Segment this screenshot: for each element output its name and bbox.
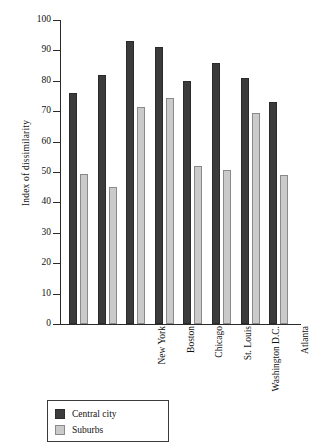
legend-swatch-central bbox=[55, 409, 65, 419]
legend-label: Suburbs bbox=[72, 425, 103, 435]
y-axis-tick bbox=[53, 172, 60, 173]
y-axis-tick bbox=[53, 81, 60, 82]
y-axis-tick-labels: 1009080706050403020100 bbox=[19, 20, 51, 325]
bar-suburbs bbox=[80, 174, 88, 324]
bar-group bbox=[269, 20, 289, 324]
y-axis-tick bbox=[53, 294, 60, 295]
y-axis-tick bbox=[53, 142, 60, 143]
y-axis-tick-label: 50 bbox=[21, 167, 51, 177]
y-axis-tick bbox=[53, 20, 60, 21]
bar-central-city bbox=[126, 41, 134, 324]
bar-central-city bbox=[98, 75, 106, 324]
y-axis-tick bbox=[53, 202, 60, 203]
bar-group bbox=[126, 20, 146, 324]
plot-area bbox=[60, 20, 301, 325]
bar-central-city bbox=[241, 78, 249, 324]
bar-central-city bbox=[69, 93, 77, 324]
bar-suburbs bbox=[109, 187, 117, 324]
bar-group bbox=[98, 20, 118, 324]
y-axis-tick-label: 20 bbox=[21, 258, 51, 268]
bar-suburbs bbox=[280, 175, 288, 324]
bar-central-city bbox=[183, 81, 191, 324]
y-axis-tick bbox=[53, 50, 60, 51]
legend-swatch-suburb bbox=[55, 425, 65, 435]
y-axis-tick-label: 100 bbox=[21, 15, 51, 25]
y-axis-tick-label: 90 bbox=[21, 45, 51, 55]
y-axis-tick bbox=[53, 263, 60, 264]
bar-group bbox=[69, 20, 89, 324]
bar-suburbs bbox=[223, 170, 231, 324]
y-axis-tick bbox=[53, 111, 60, 112]
bar-central-city bbox=[269, 102, 277, 324]
x-axis-label: Chicago bbox=[214, 326, 224, 400]
y-axis-tick-label: 80 bbox=[21, 76, 51, 86]
bar-suburbs bbox=[166, 98, 174, 324]
y-axis-tick bbox=[53, 324, 60, 325]
x-axis-category-labels: New YorkBostonChicagoSt. LouisWashington… bbox=[60, 326, 301, 400]
chart-legend: Central citySuburbs bbox=[47, 400, 169, 442]
x-axis-label: St. Louis bbox=[243, 326, 253, 400]
bar-group bbox=[241, 20, 261, 324]
legend-item: Central city bbox=[55, 406, 168, 422]
x-axis-label: Washington D.C. bbox=[271, 326, 281, 400]
x-axis-label: Boston bbox=[186, 326, 196, 400]
bar-suburbs bbox=[137, 107, 145, 324]
y-axis-tick-label: 30 bbox=[21, 228, 51, 238]
bar-group bbox=[155, 20, 175, 324]
x-axis-label: Atlanta bbox=[300, 326, 310, 400]
y-axis-tick-label: 10 bbox=[21, 289, 51, 299]
y-axis-tick-label: 0 bbox=[21, 319, 51, 329]
bar-suburbs bbox=[252, 113, 260, 324]
y-axis-tick bbox=[53, 233, 60, 234]
bar-central-city bbox=[155, 47, 163, 324]
legend-label: Central city bbox=[72, 409, 117, 419]
y-axis-tick-label: 40 bbox=[21, 197, 51, 207]
y-axis-tick-label: 70 bbox=[21, 106, 51, 116]
legend-item: Suburbs bbox=[55, 422, 168, 438]
y-axis-line bbox=[60, 20, 61, 325]
x-axis-label: New York bbox=[157, 326, 167, 400]
bar-central-city bbox=[212, 63, 220, 324]
y-axis-tick-label: 60 bbox=[21, 137, 51, 147]
bar-chart-figure: Index of dissimilarity 10090807060504030… bbox=[0, 0, 321, 448]
bar-group bbox=[212, 20, 232, 324]
x-axis-line bbox=[60, 324, 301, 325]
bar-group bbox=[183, 20, 203, 324]
bar-suburbs bbox=[194, 166, 202, 324]
